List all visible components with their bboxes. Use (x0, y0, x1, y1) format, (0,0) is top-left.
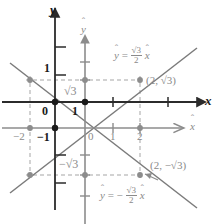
point-upper-left (27, 77, 33, 83)
line-positive-slope (10, 48, 197, 193)
point-label-upper-right: (2, √3) (146, 75, 176, 86)
x-label-one: 1 (72, 105, 78, 117)
point-2-sqrt3 (137, 77, 143, 83)
primary-axes (2, 16, 198, 210)
xhat-label-two: 2 (137, 131, 143, 142)
equation-upper-lhs: ̂y (114, 50, 119, 61)
y-tick-label-1: 1 (44, 62, 50, 74)
equation-upper-fraction: √3 2 (131, 46, 142, 66)
dark-points (52, 99, 88, 131)
point-sqrt3-on-yhat (82, 77, 88, 83)
point-minus-one-on-y (52, 125, 58, 131)
y-label-minus-one: −1 (37, 131, 50, 143)
equation-lower: ̂y = − √3 2 ̂x (100, 186, 145, 206)
equation-lower-equals: = (108, 189, 114, 201)
point-origin-primary (52, 99, 58, 105)
point-2-minus-sqrt3 (137, 172, 143, 178)
equation-lower-minus: − (117, 189, 123, 201)
x-hat-axis-label: ̂x (190, 121, 195, 132)
origin-label-zero: 0 (42, 105, 48, 117)
equation-lower-lhs: ̂y (100, 190, 105, 201)
x-hat-caret: ̂ (190, 115, 195, 124)
y-axis-label: y (50, 3, 56, 16)
y-hat-caret: ̂ (81, 18, 86, 27)
point-lower-left (27, 172, 33, 178)
hat-origin-label-zero: 0 (88, 131, 94, 142)
point-minus-sqrt3-on-yhat (82, 172, 88, 178)
equation-upper-denominator: 2 (131, 56, 142, 65)
equation-lower-variable: ̂x (140, 190, 145, 201)
equation-upper-variable: ̂x (145, 50, 150, 61)
point-label-lower-right: (2, −√3) (150, 160, 186, 171)
equation-lower-denominator: 2 (126, 196, 137, 205)
xhat-label-minus-two: −2 (13, 131, 25, 142)
point-one-on-x (82, 99, 88, 105)
yhat-label-minus-sqrt3: −√3 (59, 158, 78, 170)
figure-canvas: y x ̂y ̂x 1 0 1 −1 −2 0 1 2 √3 −√3 (2, √… (0, 0, 220, 224)
equation-lower-fraction: √3 2 (126, 186, 137, 206)
y-hat-axis-label: ̂y (81, 24, 86, 35)
hat-axis-ticks (80, 62, 140, 196)
point-xhat-minus-2 (27, 125, 33, 131)
xhat-label-one: 1 (110, 131, 116, 142)
equation-upper: ̂y = √3 2 ̂x (114, 46, 150, 66)
yhat-label-sqrt3: √3 (64, 85, 77, 97)
x-axis-label: x (205, 94, 212, 107)
equation-upper-equals: = (122, 49, 128, 61)
